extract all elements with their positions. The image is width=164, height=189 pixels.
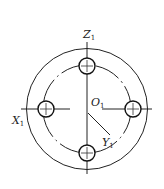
y-axis-line (88, 113, 110, 135)
y-axis-label: Y1 (102, 137, 114, 150)
x-axis-label: X1 (12, 115, 24, 128)
z-axis-label: Z1 (83, 29, 95, 42)
origin-label: O1 (91, 97, 105, 110)
flange-diagram (0, 0, 164, 189)
